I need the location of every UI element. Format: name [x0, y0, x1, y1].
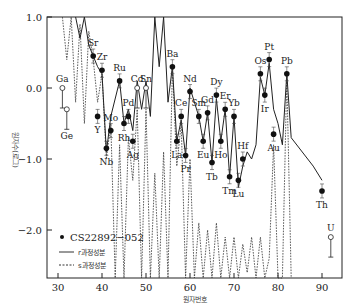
data-point-hf: Hf: [237, 141, 249, 166]
element-label: Mo: [103, 113, 118, 123]
element-label: Pd: [122, 98, 134, 108]
chart: 1.00.0−1.0−2.0 30405060708090 GaGeSrYZrN…: [0, 0, 354, 307]
element-label: Ba: [166, 49, 179, 59]
x-tick-label: 30: [52, 282, 65, 293]
element-label: Hf: [237, 141, 249, 151]
data-point-pb: Pb: [281, 56, 293, 81]
element-label: Ga: [56, 74, 69, 84]
element-label: U: [327, 223, 335, 233]
element-label: Ho: [214, 150, 227, 160]
x-tick-label: 60: [184, 282, 197, 293]
data-point-ce: Ce: [175, 98, 187, 123]
element-label: La: [171, 150, 183, 160]
data-point-os: Os: [254, 56, 266, 81]
data-points: GaGeSrYZrNbMoRuRhPdAgCdSnBaLaCePrNdSmEuG…: [56, 38, 335, 257]
x-tick-label: 70: [228, 282, 241, 293]
data-point-y: Y: [94, 109, 102, 135]
data-point-u: U: [327, 223, 335, 257]
element-label: Ag: [126, 150, 139, 160]
data-point-nd: Nd: [183, 74, 197, 99]
x-tick-label: 90: [316, 282, 329, 293]
element-label: Ir: [261, 104, 270, 114]
y-axis-label: 원자수(로그): [11, 132, 20, 168]
element-label: Nb: [100, 157, 114, 167]
element-label: Pb: [281, 56, 293, 66]
data-point-ru: Ru: [113, 63, 126, 88]
data-point-sn: Sn: [140, 74, 152, 108]
element-label: Lu: [233, 189, 245, 199]
y-tick-label: 0.0: [26, 83, 42, 94]
x-tick-label: 80: [272, 282, 285, 293]
data-point-eu: Eu: [197, 134, 210, 160]
legend-label-s: s과정성분: [78, 261, 107, 270]
x-tick-label: 40: [96, 282, 109, 293]
data-point-au: Au: [266, 127, 279, 153]
element-label: Zr: [97, 52, 108, 62]
element-label: Pr: [180, 164, 191, 174]
element-label: Th: [316, 200, 328, 210]
element-label: Dy: [210, 77, 223, 87]
element-label: Y: [94, 125, 102, 135]
y-tick-label: −1.0: [18, 154, 42, 165]
x-tick-label: 50: [140, 282, 153, 293]
data-point-ge: Ge: [61, 107, 74, 142]
element-label: Sr: [88, 38, 99, 48]
element-label: Ce: [175, 98, 187, 108]
legend-label-star: CS22892−052: [70, 232, 144, 243]
element-label: Os: [254, 56, 266, 66]
element-label: Ge: [61, 131, 74, 141]
x-axis: 30405060708090: [52, 273, 329, 293]
legend: CS22892−052 r과정성분 s과정성분: [59, 232, 144, 270]
element-label: Pt: [264, 42, 274, 52]
element-label: Sn: [140, 74, 152, 84]
legend-dot-icon: [60, 235, 64, 239]
element-label: Tb: [206, 172, 218, 182]
element-label: Gd: [201, 95, 214, 105]
y-tick-label: 1.0: [26, 12, 42, 23]
y-tick-label: −2.0: [18, 225, 42, 236]
data-point-th: Th: [316, 184, 328, 210]
x-axis-label: 원자번호: [183, 295, 208, 304]
element-label: Ru: [113, 63, 126, 73]
element-label: Au: [266, 143, 279, 153]
element-label: Nd: [183, 74, 197, 84]
data-point-ho: Ho: [214, 134, 227, 160]
element-label: Eu: [197, 150, 210, 160]
element-label: Rh: [118, 133, 131, 143]
element-label: Yb: [227, 98, 240, 108]
legend-label-r: r과정성분: [78, 248, 106, 257]
data-point-ga: Ga: [56, 74, 69, 108]
